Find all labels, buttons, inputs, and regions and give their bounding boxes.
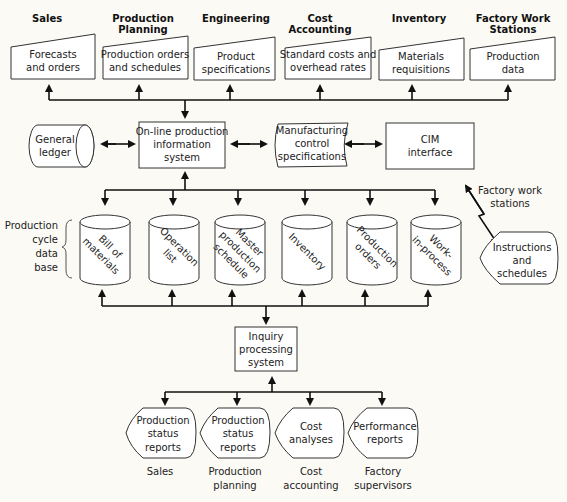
svg-text:information: information [153,139,211,150]
svg-text:On-line production: On-line production [136,126,229,137]
svg-text:Production orders: Production orders [101,49,189,60]
file-bill-of-materials: Bill of materials [80,215,131,285]
svg-text:base: base [34,262,58,273]
file-inventory: Inventory [282,215,332,285]
brace-icon [62,220,72,278]
svg-text:Factory work: Factory work [478,185,542,196]
svg-text:Standard costs and: Standard costs and [280,49,377,60]
svg-text:Cost: Cost [300,421,322,432]
recipient-production-planning: Production [208,466,261,477]
svg-text:requisitions: requisitions [392,64,450,75]
svg-text:interface: interface [408,147,453,158]
production-cycle-diagram: Sales Production Planning Engineering Co… [0,0,567,502]
svg-text:Forecasts: Forecasts [29,49,77,60]
reports-bus [165,378,382,404]
svg-text:specifications: specifications [202,64,270,75]
svg-text:Performance: Performance [353,421,416,432]
database-files: Bill of materials Operation list Master … [80,215,463,285]
file-work-in-process: Work- in-process [410,215,463,285]
svg-text:Production: Production [5,220,58,231]
svg-text:General: General [35,134,74,145]
report-production-status-sales: Production status reports Sales [126,408,196,477]
svg-text:specifications: specifications [278,151,346,162]
dept-header-engineering: Engineering [202,13,270,24]
report-production-status-planning: Production status reports Production pla… [200,408,270,491]
input-standard-costs: Standard costs and overhead rates [280,37,377,79]
instructions-and-schedules-output: Instructions and schedules [480,232,558,284]
svg-text:and: and [513,255,532,266]
manufacturing-control-specifications: Manufacturing control specifications [275,123,348,167]
top-bus-connectors [49,86,508,117]
dept-header-inventory: Inventory [392,13,447,24]
database-write-bus [105,173,435,204]
svg-text:supervisors: supervisors [354,480,412,491]
production-cycle-database-label: Production cycle data base [5,220,72,278]
inquiry-processing-system: Inquiry processing system [235,327,297,371]
svg-text:stations: stations [490,198,530,209]
svg-text:reports: reports [145,442,181,453]
svg-text:Manufacturing: Manufacturing [276,125,348,136]
svg-text:CIM: CIM [421,134,440,145]
svg-text:Accounting: Accounting [288,24,351,35]
input-production-data: Production data [470,37,555,80]
dept-header-cost-accounting: Cost [308,13,333,24]
svg-text:Production: Production [136,415,189,426]
online-production-information-system: On-line production information system [136,122,229,168]
svg-text:Production: Production [486,51,539,62]
svg-text:Product: Product [217,51,255,62]
recipient-sales: Sales [147,466,174,477]
report-cost-analyses: Cost analyses Cost accounting [275,408,344,491]
svg-text:ledger: ledger [39,147,72,158]
svg-text:analyses: analyses [289,434,333,445]
svg-text:accounting: accounting [283,480,338,491]
report-performance: Performance reports Factory supervisors [348,408,418,491]
file-operation-list: Operation list [149,215,201,285]
svg-text:and orders: and orders [26,62,80,73]
input-forecasts-orders: Forecasts and orders [11,34,95,79]
general-ledger-file: General ledger [29,125,94,167]
cim-interface: CIM interface [386,123,474,169]
svg-text:data: data [502,64,525,75]
svg-text:planning: planning [213,480,256,491]
svg-text:data: data [35,248,58,259]
file-production-orders: Production orders [345,215,400,285]
input-materials-requisitions: Materials requisitions [379,38,464,80]
svg-text:system: system [164,152,200,163]
svg-text:system: system [248,357,284,368]
svg-text:reports: reports [220,442,256,453]
svg-text:control: control [295,138,330,149]
svg-text:Planning: Planning [118,24,167,35]
svg-text:Instructions: Instructions [493,242,552,253]
svg-text:cycle: cycle [32,234,58,245]
svg-text:and schedules: and schedules [109,62,181,73]
svg-text:Inquiry: Inquiry [249,331,284,342]
database-read-bus [102,291,428,323]
svg-text:reports: reports [367,434,403,445]
report-outputs: Production status reports Sales Producti… [126,408,418,491]
file-master-production-schedule: Master production schedule [208,215,272,285]
recipient-factory-supervisors: Factory [365,466,402,477]
svg-text:status: status [223,428,254,439]
svg-text:schedules: schedules [497,268,547,279]
svg-text:Production: Production [211,415,264,426]
input-product-specifications: Product specifications [194,37,275,80]
svg-text:overhead rates: overhead rates [290,62,366,73]
input-production-orders-schedules: Production orders and schedules [101,36,189,79]
svg-text:status: status [148,428,179,439]
svg-text:processing: processing [239,344,293,355]
dept-header-sales: Sales [32,13,62,24]
dept-header-production-planning: Production [112,13,174,24]
input-documents: Forecasts and orders Production orders a… [11,34,555,80]
svg-text:Stations: Stations [490,24,537,35]
svg-text:Materials: Materials [398,51,444,62]
dept-header-factory-work-stations: Factory Work [476,13,551,24]
department-headers: Sales Production Planning Engineering Co… [32,13,551,35]
recipient-cost-accounting: Cost [300,466,322,477]
